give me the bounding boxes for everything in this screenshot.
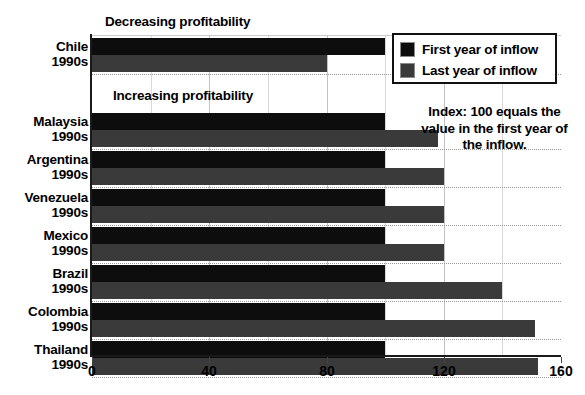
bar-last-year-chile [92,55,327,72]
bar-row [92,189,561,224]
legend-label-last-year: Last year of inflow [422,63,537,78]
category-label-chile: Chile1990s [0,39,88,69]
legend: First year of inflow Last year of inflow [392,33,557,84]
category-label-malaysia: Malaysia1990s [0,114,88,144]
annotation-increasing-profitability: Increasing profitability [113,88,253,103]
bar-row [92,227,561,262]
y-axis-line [90,34,92,357]
bar-first-year-argentina [92,151,385,168]
bar-row [92,265,561,300]
category-label-mexico: Mexico1990s [0,228,88,258]
x-tick-label-160: 160 [531,363,585,379]
legend-swatch-last-year [400,63,415,78]
category-label-brazil: Brazil1990s [0,266,88,296]
x-tick-label-80: 80 [297,363,357,379]
bar-last-year-venezuela [92,206,444,223]
legend-item-last-year: Last year of inflow [400,60,550,81]
bar-row [92,151,561,186]
category-label-venezuela: Venezuela1990s [0,190,88,220]
category-label-argentina: Argentina1990s [0,152,88,182]
bar-last-year-malaysia [92,130,438,147]
bar-row [92,303,561,338]
x-axis-line [90,355,561,357]
bar-first-year-malaysia [92,113,385,130]
bar-first-year-venezuela [92,189,385,206]
legend-label-first-year: First year of inflow [422,42,538,57]
x-tick-label-120: 120 [414,363,474,379]
bar-last-year-colombia [92,320,535,337]
x-tick-label-0: 0 [62,363,122,379]
bar-last-year-brazil [92,282,502,299]
bar-last-year-mexico [92,244,444,261]
bar-first-year-colombia [92,303,385,320]
legend-swatch-first-year [400,42,415,57]
legend-item-first-year: First year of inflow [400,39,550,60]
bar-first-year-brazil [92,265,385,282]
bar-first-year-chile [92,38,385,55]
bar-last-year-argentina [92,168,444,185]
cut-off-text-artifact: . . . . . . . . . . [0,0,585,9]
category-label-colombia: Colombia1990s [0,304,88,334]
annotation-decreasing-profitability: Decreasing profitability [105,14,250,29]
x-tick-label-40: 40 [179,363,239,379]
bar-chart: . . . . . . . . . . Chile1990sMalaysia19… [0,0,585,395]
bar-first-year-mexico [92,227,385,244]
annotation-index-note: Index: 100 equals the value in the first… [412,104,577,154]
